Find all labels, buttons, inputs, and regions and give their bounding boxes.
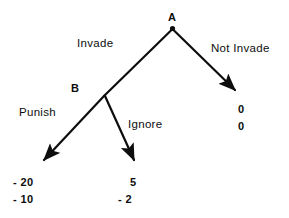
- payoff-ignore-player-b: - 2: [118, 194, 132, 205]
- edge-invade: [105, 30, 172, 96]
- payoff-punish-player-a: - 20: [13, 177, 34, 188]
- node-label-a: A: [168, 12, 176, 23]
- branch-label-punish: Punish: [19, 107, 56, 119]
- edge-not-invade: [174, 30, 236, 90]
- branch-label-not-invade: Not Invade: [211, 43, 270, 55]
- game-tree-figure: A B Invade Not Invade Punish Ignore 0 0 …: [0, 0, 289, 218]
- payoff-ignore-player-a: 5: [130, 177, 137, 188]
- node-label-b: B: [71, 83, 79, 94]
- branch-label-ignore: Ignore: [128, 119, 162, 131]
- branch-label-invade: Invade: [77, 38, 113, 50]
- payoff-punish-player-b: - 10: [13, 194, 34, 205]
- payoff-not-invade-player-a: 0: [238, 104, 245, 115]
- payoff-not-invade-player-b: 0: [238, 121, 245, 132]
